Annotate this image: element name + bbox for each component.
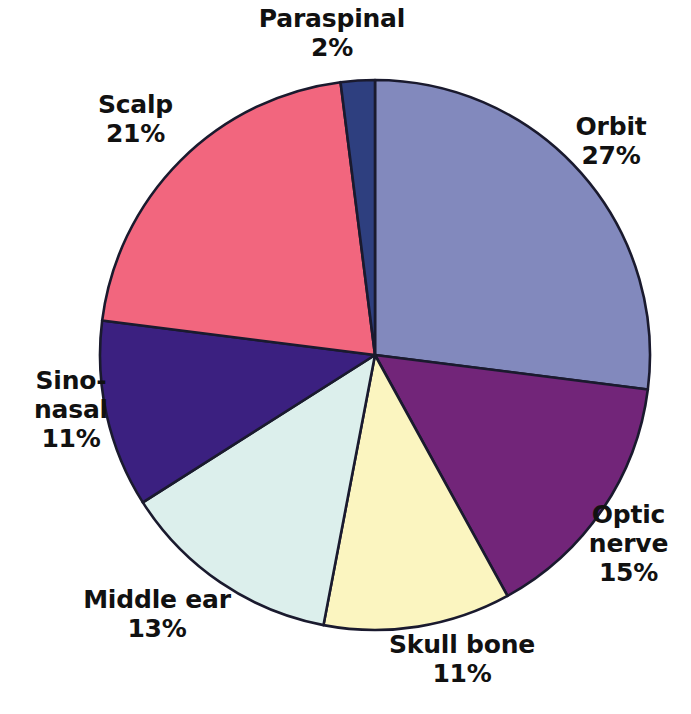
slice-label-skull-bone-value: 11% (352, 659, 572, 688)
slice-label-middle-ear-name: Middle ear (42, 585, 272, 614)
slice-label-paraspinal-name: Paraspinal (212, 4, 452, 33)
slice-label-skull-bone-name: Skull bone (352, 630, 572, 659)
slice-label-skull-bone: Skull bone 11% (352, 630, 572, 688)
slice-label-sino-nasal-value: 11% (6, 424, 136, 453)
slice-label-optic-nerve-value: 15% (566, 558, 691, 587)
slice-label-sino-nasal: Sino- nasal 11% (6, 366, 136, 453)
slice-label-orbit-value: 27% (536, 141, 686, 170)
pie-chart-figure: Paraspinal 2% Orbit 27% Optic nerve 15% … (0, 0, 691, 714)
slice-label-orbit: Orbit 27% (536, 112, 686, 170)
slice-label-scalp-value: 21% (58, 119, 213, 148)
slice-label-sino-nasal-name-line1: Sino- (6, 366, 136, 395)
slice-label-optic-nerve-name-line2: nerve (566, 529, 691, 558)
slice-label-orbit-name: Orbit (536, 112, 686, 141)
slice-label-middle-ear-value: 13% (42, 614, 272, 643)
slice-label-paraspinal: Paraspinal 2% (212, 4, 452, 62)
slice-label-sino-nasal-name-line2: nasal (6, 395, 136, 424)
slice-label-paraspinal-value: 2% (212, 33, 452, 62)
slice-label-scalp: Scalp 21% (58, 90, 213, 148)
slice-label-optic-nerve-name-line1: Optic (566, 500, 691, 529)
slice-label-middle-ear: Middle ear 13% (42, 585, 272, 643)
slice-label-scalp-name: Scalp (58, 90, 213, 119)
figure-caption (0, 698, 691, 714)
slice-label-optic-nerve: Optic nerve 15% (566, 500, 691, 587)
